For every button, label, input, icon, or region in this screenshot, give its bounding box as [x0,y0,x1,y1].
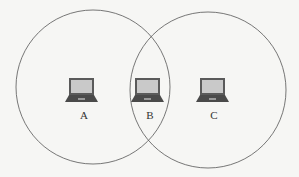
laptop-icon-a [65,78,98,102]
laptop-icon-b [131,78,164,102]
node-label-b: B [140,109,160,121]
laptop-icon-c [196,78,229,102]
node-label-c: C [204,109,224,121]
node-label-a: A [74,109,94,121]
diagram-canvas [0,0,299,177]
